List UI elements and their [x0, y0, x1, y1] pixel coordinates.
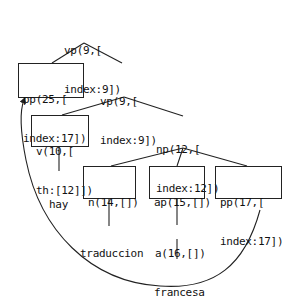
node-traduccion: traduccion — [80, 221, 143, 273]
node-label: hay — [49, 198, 68, 211]
node-label: a(16,[]) — [155, 247, 206, 260]
node-label: francesa — [154, 286, 205, 299]
node-pp25: pp(25,[ index:17]) — [18, 63, 84, 98]
node-label: traduccion — [80, 247, 143, 260]
node-label: np(12,[ — [156, 143, 219, 156]
node-v10: v(10,[ th:[12]]) — [31, 115, 89, 147]
node-label: pp(17,[ — [220, 196, 277, 209]
node-n14: n(14,[]) — [83, 166, 136, 199]
node-francesa: francesa — [154, 260, 205, 303]
node-label: ap(15,[]) — [154, 196, 200, 209]
node-label: index:9]) — [100, 134, 157, 147]
node-pp17: pp(17,[ index:17]) — [215, 166, 282, 199]
node-hay: hay — [49, 172, 68, 224]
node-ap15: ap(15,[]) — [149, 166, 205, 199]
node-label: n(14,[]) — [88, 196, 131, 209]
node-label: pp(25,[ — [23, 93, 79, 106]
node-label: vp(9,[ — [100, 95, 157, 108]
node-label: v(10,[ — [36, 145, 84, 158]
node-vp-child: vp(9,[ index:9]) — [100, 69, 157, 160]
node-label: index:17]) — [220, 235, 277, 248]
node-label: vp(9,[ — [64, 44, 121, 57]
